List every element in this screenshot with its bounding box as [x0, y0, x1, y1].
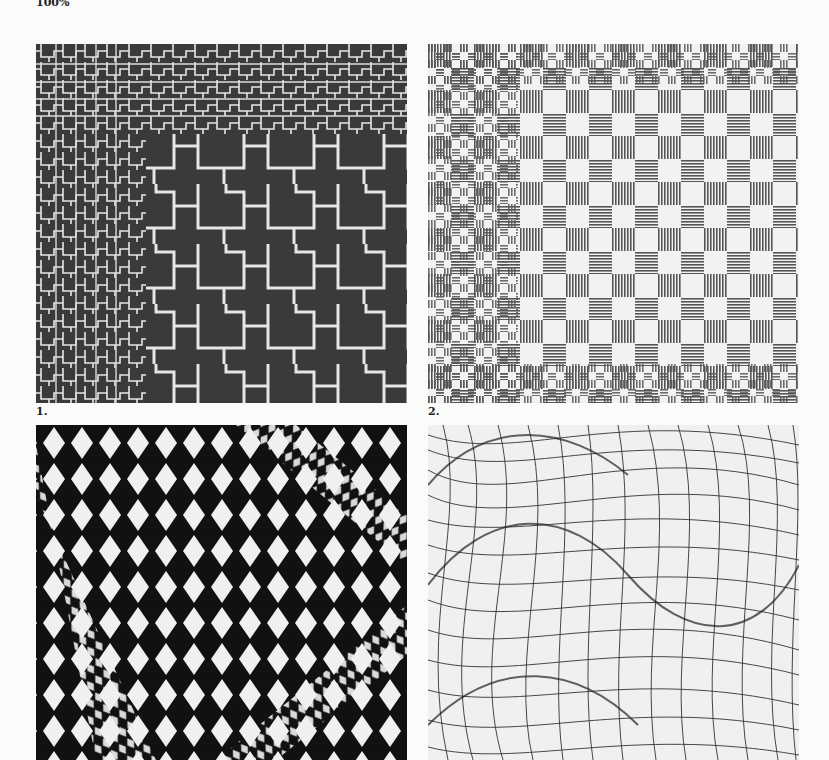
figure-2-caption: 2. [428, 405, 439, 418]
diamond-checker-graphic [36, 425, 407, 760]
figure-4-warped-grid [428, 425, 799, 760]
figure-1-caption: 1. [36, 405, 47, 418]
striped-checkerboard-graphic [428, 44, 799, 403]
figure-2-striped-checkerboard [428, 44, 799, 403]
stepped-lines-graphic [36, 44, 407, 403]
warped-grid-graphic [428, 425, 799, 760]
figure-3-diamond-checker [36, 425, 407, 760]
figure-1-stepped-lines [36, 44, 407, 403]
zoom-level-label: 100% [36, 0, 69, 9]
